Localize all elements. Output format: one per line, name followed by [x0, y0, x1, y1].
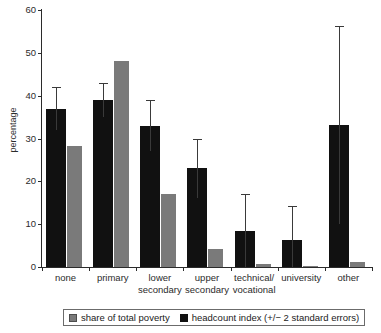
y-tick: 20 [0, 181, 42, 182]
legend-label-share: share of total poverty [81, 312, 170, 323]
y-tick: 50 [0, 53, 42, 54]
y-tick-label: 30 [25, 132, 36, 145]
x-tick [278, 267, 279, 271]
y-tick-label: 60 [25, 3, 36, 16]
legend-swatch-black-icon [180, 314, 188, 322]
bar-chart: percentage 0102030405060 noneprimarylowe… [0, 0, 381, 333]
error-bar-cap-upper [288, 206, 297, 207]
y-axis-title: percentage [8, 90, 18, 170]
error-bar [245, 194, 246, 267]
x-axis-label: lower secondary [136, 272, 183, 295]
error-bar [56, 87, 57, 130]
legend-swatch-gray-icon [69, 314, 77, 322]
error-bar [339, 26, 340, 224]
error-bar-cap-upper [193, 139, 202, 140]
error-bar [197, 139, 198, 199]
bar-share-of-total-poverty [67, 146, 82, 267]
x-tick [136, 267, 137, 271]
error-bar-cap-upper [241, 194, 250, 195]
y-tick: 10 [0, 224, 42, 225]
x-tick [231, 267, 232, 271]
bar-headcount-index [46, 109, 66, 267]
x-tick [372, 267, 373, 271]
bar-group [235, 10, 282, 267]
y-tick: 40 [0, 96, 42, 97]
y-tick-label: 50 [25, 46, 36, 59]
y-tick-label: 20 [25, 174, 36, 187]
bar-group [93, 10, 140, 267]
y-tick-label: 40 [25, 89, 36, 102]
x-tick [89, 267, 90, 271]
error-bar-cap-upper [99, 83, 108, 84]
y-tick: 60 [0, 10, 42, 11]
x-axis-label: technical/ vocational [231, 272, 278, 295]
error-bar-cap-upper [335, 26, 344, 27]
chart-legend: share of total poverty headcount index (… [63, 309, 365, 326]
bar-group [187, 10, 234, 267]
y-tick-label: 0 [31, 260, 36, 273]
legend-entry-share: share of total poverty [69, 312, 170, 323]
error-bar [292, 206, 293, 267]
bar-share-of-total-poverty [256, 264, 271, 267]
x-axis-label: other [325, 272, 372, 284]
x-tick [325, 267, 326, 271]
x-axis-label: university [278, 272, 325, 284]
error-bar-cap-upper [52, 87, 61, 88]
error-bar-cap-upper [146, 100, 155, 101]
x-axis-line [41, 267, 373, 268]
legend-label-headcount: headcount index (+/− 2 standard errors) [192, 312, 359, 323]
bar-group [282, 10, 329, 267]
bar-group [140, 10, 187, 267]
x-axis-label: upper secondary [183, 272, 230, 295]
y-tick-label: 10 [25, 217, 36, 230]
x-tick [183, 267, 184, 271]
y-tick: 0 [0, 267, 42, 268]
bar-share-of-total-poverty [208, 249, 223, 267]
x-axis-label: primary [89, 272, 136, 284]
y-tick: 30 [0, 139, 42, 140]
x-tick [42, 267, 43, 271]
error-bar [150, 100, 151, 151]
bar-group [46, 10, 93, 267]
bar-headcount-index [93, 100, 113, 267]
bar-share-of-total-poverty [350, 262, 365, 267]
bar-group [329, 10, 376, 267]
plot-area [42, 10, 372, 267]
error-bar [103, 83, 104, 117]
bar-share-of-total-poverty [114, 61, 129, 267]
x-axis-label: none [42, 272, 89, 284]
legend-entry-headcount: headcount index (+/− 2 standard errors) [180, 312, 359, 323]
bar-share-of-total-poverty [303, 266, 318, 267]
bar-share-of-total-poverty [161, 194, 176, 267]
